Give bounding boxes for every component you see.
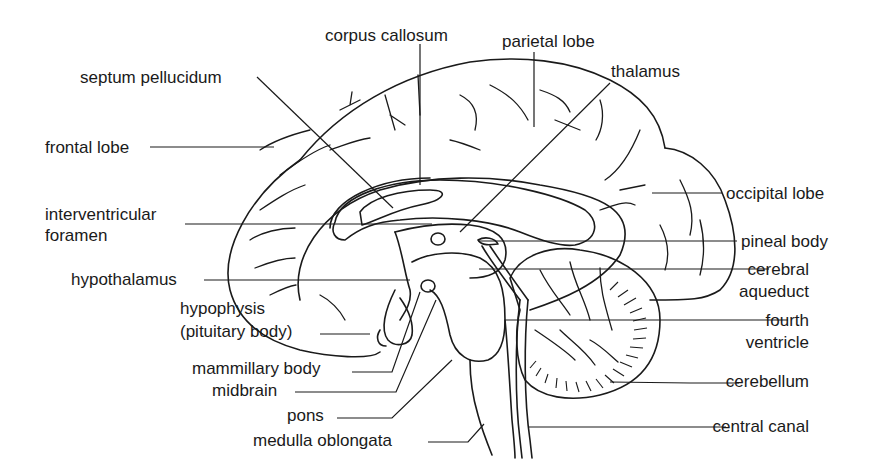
- label-interventricular-foramen-line1: interventricular: [45, 205, 157, 225]
- label-interventricular-foramen-line2: foramen: [45, 226, 107, 246]
- label-frontal-lobe: frontal lobe: [45, 138, 129, 158]
- label-pons: pons: [287, 406, 324, 426]
- label-fourth-ventricle-line1: fourth: [766, 311, 809, 331]
- label-hypophysis-line1: hypophysis: [180, 299, 265, 319]
- label-central-canal: central canal: [713, 417, 809, 437]
- label-cerebral-aqueduct-line2: aqueduct: [739, 282, 809, 302]
- leader-thalamus: [460, 83, 610, 232]
- interventricular-foramen-shape: [431, 233, 445, 245]
- label-thalamus: thalamus: [611, 62, 680, 82]
- diencephalon: [395, 224, 506, 320]
- label-hypophysis-line2: (pituitary body): [180, 322, 292, 342]
- corpus-callosum-shape: [333, 180, 595, 245]
- mammillary-body-shape: [421, 280, 435, 292]
- label-corpus-callosum: corpus callosum: [325, 26, 448, 46]
- leader-pons: [337, 360, 452, 418]
- label-parietal-lobe: parietal lobe: [502, 32, 595, 52]
- label-medulla-oblongata: medulla oblongata: [253, 431, 392, 451]
- label-pineal-body: pineal body: [741, 232, 828, 252]
- cerebellum-folia: [530, 282, 647, 392]
- label-mammillary-body: mammillary body: [192, 359, 320, 379]
- label-occipital-lobe: occipital lobe: [726, 184, 824, 204]
- label-cerebral-aqueduct-line1: cerebral: [748, 260, 809, 280]
- label-fourth-ventricle-line2: ventricle: [746, 333, 809, 353]
- cerebellum-shape: [510, 249, 660, 399]
- label-hypothalamus: hypothalamus: [71, 270, 177, 290]
- leader-medulla-oblongata: [428, 424, 484, 442]
- label-cerebellum: cerebellum: [726, 372, 809, 392]
- leader-septum-pellucidum: [257, 77, 393, 208]
- label-septum-pellucidum: septum pellucidum: [80, 68, 222, 88]
- cortical-sulci: [250, 75, 703, 320]
- hypophysis-shape: [378, 280, 435, 346]
- label-midbrain: midbrain: [212, 381, 277, 401]
